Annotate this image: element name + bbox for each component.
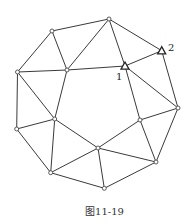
edge-C-D (18, 70, 68, 72)
edge-D-T1 (67, 66, 125, 70)
circle-node-icon (96, 146, 100, 150)
edge-H-G (140, 108, 178, 120)
edge-I-J (51, 148, 98, 173)
circle-node-icon (50, 29, 54, 33)
node-label-1: 1 (116, 71, 122, 82)
edge-G-K (156, 108, 178, 162)
edge-A-C (18, 31, 53, 72)
triangle-node-icon (121, 62, 129, 69)
graph-nodes (15, 17, 180, 190)
edge-T1-H (125, 66, 140, 120)
circle-node-icon (15, 127, 19, 131)
edge-A-D (52, 31, 67, 70)
edge-E-F (17, 119, 55, 129)
circle-node-icon (49, 171, 53, 175)
circle-node-icon (53, 117, 57, 121)
edge-B-T1 (109, 19, 125, 66)
edge-I-L (98, 148, 104, 188)
edge-T2-G (162, 51, 178, 108)
triangle-node-icon (158, 47, 166, 54)
edge-T1-T2 (125, 51, 162, 66)
circle-node-icon (154, 160, 158, 164)
edge-H-I (98, 120, 140, 148)
circle-node-icon (102, 186, 106, 190)
edge-C-F (18, 72, 55, 119)
edge-I-K (98, 148, 156, 162)
edge-D-F (55, 70, 67, 119)
edge-F-I (55, 119, 98, 148)
edge-T1-G (125, 66, 178, 108)
figure-caption: 图11-19 (0, 203, 191, 218)
edge-E-J (17, 129, 51, 173)
edge-H-K (140, 120, 156, 162)
triangulation-graph: 12 (0, 0, 191, 224)
circle-node-icon (65, 68, 69, 72)
edge-C-E (17, 72, 18, 129)
edge-K-L (104, 162, 156, 188)
edge-J-L (51, 173, 105, 189)
circle-node-icon (107, 17, 111, 21)
circle-node-icon (138, 118, 142, 122)
edge-F-J (51, 119, 55, 173)
edge-B-T2 (109, 19, 162, 51)
node-label-2: 2 (168, 42, 174, 53)
circle-node-icon (16, 70, 20, 74)
circle-node-icon (176, 106, 180, 110)
